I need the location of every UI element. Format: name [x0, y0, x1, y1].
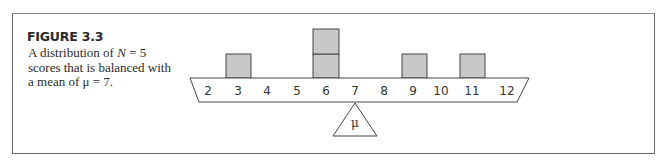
scale-label: 6 [322, 84, 330, 98]
scale-label: 9 [409, 84, 417, 98]
mu-symbol: μ [351, 116, 359, 130]
scale-label: 10 [433, 84, 448, 98]
block-score-3 [226, 54, 251, 78]
scale-label: 2 [204, 84, 212, 98]
scale-label: 4 [263, 84, 271, 98]
seesaw-diagram: 2 3 4 5 6 7 8 9 10 11 12 μ [0, 0, 671, 161]
block-score-6-upper [313, 29, 339, 54]
scale-label: 3 [234, 84, 242, 98]
scale-label: 12 [499, 84, 514, 98]
block-score-11 [460, 54, 485, 78]
score-blocks [226, 29, 485, 78]
block-score-6-lower [313, 54, 339, 78]
scale-label: 11 [464, 84, 479, 98]
scale-label: 7 [351, 84, 359, 98]
scale-label: 8 [380, 84, 388, 98]
block-score-9 [402, 54, 427, 78]
scale-label: 5 [293, 84, 301, 98]
